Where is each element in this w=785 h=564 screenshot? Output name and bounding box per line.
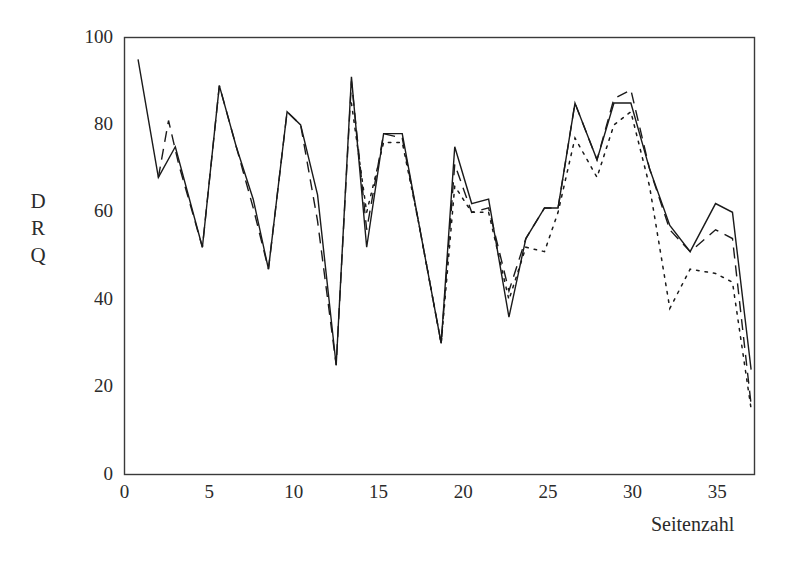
y-tick-label: 20 bbox=[58, 375, 113, 397]
y-tick-label: 40 bbox=[58, 288, 113, 310]
y-tick-label: 60 bbox=[58, 200, 113, 222]
y-axis-title-line-2: R bbox=[18, 215, 58, 242]
y-axis-title: D R Q bbox=[18, 188, 58, 269]
figure-background bbox=[0, 0, 785, 564]
x-tick-label: 25 bbox=[518, 481, 578, 503]
plot-area bbox=[0, 0, 785, 564]
x-tick-label: 30 bbox=[603, 481, 663, 503]
y-tick-label: 80 bbox=[58, 113, 113, 135]
x-tick-label: 35 bbox=[687, 481, 747, 503]
x-tick-label: 20 bbox=[433, 481, 493, 503]
y-tick-label: 100 bbox=[58, 26, 113, 48]
x-tick-label: 0 bbox=[95, 481, 155, 503]
x-tick-label: 10 bbox=[264, 481, 324, 503]
x-tick-label: 15 bbox=[349, 481, 409, 503]
x-axis-title: Seitenzahl bbox=[651, 513, 734, 536]
y-axis-title-line-1: D bbox=[18, 188, 58, 215]
x-tick-label: 5 bbox=[179, 481, 239, 503]
chart-figure: D R Q Seitenzahl 020406080100 0510152025… bbox=[0, 0, 785, 564]
y-axis-title-line-3: Q bbox=[18, 242, 58, 269]
